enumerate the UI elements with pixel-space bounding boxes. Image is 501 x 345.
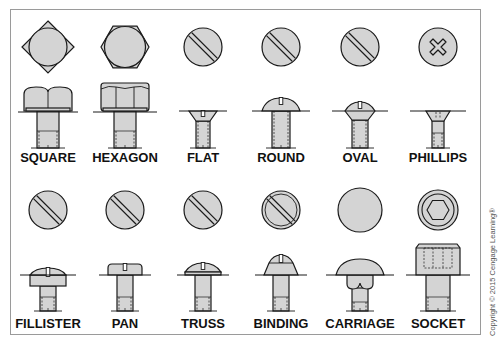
square-head-side-icon [18, 87, 78, 148]
label-socket: SOCKET [411, 316, 465, 331]
fillister-head-side-icon [20, 268, 76, 312]
oval-head-side-icon [332, 102, 388, 149]
screw-item-phillips: PHILLIPS [409, 28, 468, 165]
label-hexagon: HEXAGON [92, 150, 158, 165]
truss-head-side-icon [177, 263, 229, 312]
square-head-top-icon [22, 21, 74, 73]
screw-item-socket: SOCKET [406, 190, 470, 331]
label-binding: BINDING [254, 316, 309, 331]
slotted-head-top-icon [106, 191, 144, 229]
pan-head-side-icon [99, 264, 151, 312]
label-round: ROUND [257, 150, 305, 165]
label-carriage: CARRIAGE [325, 316, 395, 331]
label-phillips: PHILLIPS [409, 150, 468, 165]
carriage-head-top-icon [338, 188, 382, 232]
screw-item-oval: OVAL [332, 28, 388, 165]
screw-item-flat: FLAT [179, 28, 227, 165]
phillips-head-side-icon [410, 111, 466, 148]
slotted-head-top-icon [184, 191, 222, 229]
screw-head-diagram: SQUAREHEXAGONFLATROUNDOVALPHILLIPSFILLIS… [0, 0, 501, 345]
slotted-head-top-icon [184, 28, 222, 66]
socket-head-side-icon [406, 244, 470, 311]
label-pan: PAN [112, 316, 138, 331]
screw-item-binding: BINDING [254, 191, 309, 331]
label-truss: TRUSS [181, 316, 225, 331]
label-fillister: FILLISTER [15, 316, 81, 331]
screw-item-truss: TRUSS [177, 191, 229, 331]
round-head-side-icon [252, 98, 310, 149]
hexagon-head-side-icon [93, 83, 157, 148]
hexagon-head-top-icon [101, 26, 149, 68]
screw-item-round: ROUND [252, 28, 310, 165]
flat-head-side-icon [179, 111, 227, 149]
carriage-head-side-icon [326, 259, 394, 311]
label-square: SQUARE [20, 150, 76, 165]
label-flat: FLAT [187, 150, 219, 165]
screw-item-carriage: CARRIAGE [325, 188, 395, 331]
slotted-head-top-icon [341, 28, 379, 66]
screw-item-square: SQUARE [18, 21, 78, 165]
binding-head-side-icon [255, 255, 307, 312]
screw-item-pan: PAN [99, 191, 151, 331]
socket-head-top-icon [418, 190, 458, 230]
copyright-notice: Copyright © 2015 Cengage Learning® [488, 208, 497, 336]
label-oval: OVAL [342, 150, 377, 165]
binding-head-top-icon [262, 191, 300, 229]
slotted-head-top-icon [29, 191, 67, 229]
phillips-head-top-icon [419, 28, 457, 66]
screw-item-hexagon: HEXAGON [92, 26, 158, 165]
screw-item-fillister: FILLISTER [15, 191, 81, 331]
slotted-head-top-icon [262, 28, 300, 66]
